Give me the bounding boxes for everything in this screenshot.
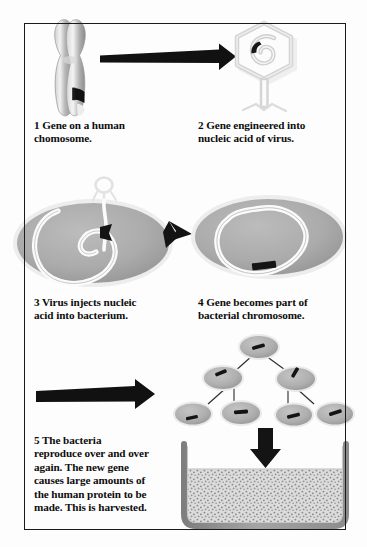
figure-root: 1 Gene on a human chomosome. 2 Gene engi… — [0, 0, 367, 547]
step-5-caption: 5 The bacteria reproduce over and over a… — [34, 434, 182, 514]
step-2-caption: 2 Gene engineered into nucleic acid of v… — [198, 119, 348, 146]
step-1-caption: 1 Gene on a human chomosome. — [34, 119, 184, 146]
step-3-caption: 3 Virus injects nucleic acid into bacter… — [34, 296, 184, 323]
step-4-caption: 4 Gene becomes part of bacterial chromos… — [198, 296, 350, 323]
